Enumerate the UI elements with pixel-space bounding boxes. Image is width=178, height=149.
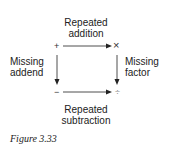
arrows (0, 0, 178, 149)
arrow-left (55, 55, 60, 85)
figure-caption: Figure 3.33 (10, 133, 57, 144)
arrow-top (63, 44, 112, 49)
arrow-right (115, 55, 120, 85)
arrow-bottom (63, 90, 112, 95)
